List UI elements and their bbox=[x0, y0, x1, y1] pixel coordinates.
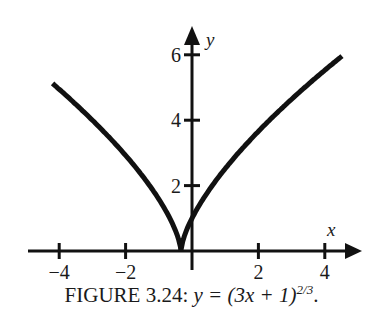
figure-caption: FIGURE 3.24: y = (3x + 1)2/3. bbox=[0, 282, 383, 308]
curve-line bbox=[53, 56, 342, 251]
caption-suffix: . bbox=[313, 283, 318, 307]
y-tick-label: 2 bbox=[171, 175, 181, 197]
caption-equation: y = (3x + 1) bbox=[194, 283, 297, 307]
x-axis-label: x bbox=[326, 219, 336, 240]
plot-area: −4−224246 x y bbox=[0, 0, 383, 323]
y-tick-label: 6 bbox=[171, 44, 181, 66]
y-axis-label: y bbox=[204, 29, 215, 50]
caption-prefix: FIGURE 3.24: bbox=[65, 283, 194, 307]
y-tick-label: 4 bbox=[171, 109, 181, 131]
x-tick-label: 2 bbox=[253, 261, 263, 283]
caption-exponent: 2/3 bbox=[297, 282, 314, 297]
x-tick-label: −2 bbox=[115, 261, 136, 283]
tick-labels: −4−224246 bbox=[49, 44, 330, 283]
x-axis-arrow-icon bbox=[345, 243, 362, 259]
x-tick-label: 4 bbox=[320, 261, 330, 283]
x-tick-label: −4 bbox=[49, 261, 70, 283]
y-axis-arrow-icon bbox=[184, 26, 200, 45]
figure: −4−224246 x y FIGURE 3.24: y = (3x + 1)2… bbox=[0, 0, 383, 323]
